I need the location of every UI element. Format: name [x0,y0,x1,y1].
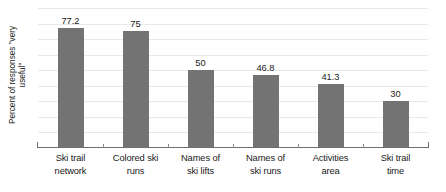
gridline [38,101,428,102]
bar [188,70,214,148]
bar-value-label: 46.8 [256,63,274,74]
x-axis-label-line: Activities [298,152,363,165]
gridline [38,117,428,118]
bar-value-label: 77.2 [61,16,79,27]
gridline [38,8,428,9]
x-axis-label: Ski trailtime [363,152,428,178]
bar-group: 46.8 [253,8,279,148]
bar-group: 50 [188,8,214,148]
x-axis-tick [298,144,299,148]
bar-value-label: 41.3 [321,72,339,83]
bar-chart: Percent of responses "very useful" 77.27… [0,0,446,192]
x-axis-tick [168,144,169,148]
x-axis-tick [363,144,364,148]
x-axis-label-line: time [363,165,428,178]
bar [383,101,409,148]
bar-group: 41.3 [318,8,344,148]
bar-group: 75 [123,8,149,148]
x-axis-label-line: network [38,165,103,178]
gridline [38,55,428,56]
gridline [38,132,428,133]
x-axis-label-line: runs [103,165,168,178]
gridline [38,24,428,25]
x-axis-tick [103,144,104,148]
plot-area: 77.2755046.841.330 [38,8,428,148]
bar [58,28,84,148]
x-axis-label: Activitiesarea [298,152,363,178]
x-axis-label-line: Colored ski [103,152,168,165]
y-axis-title-line-1: Percent of responses "very [7,26,17,124]
bar [318,84,344,148]
bar-value-label: 75 [130,19,140,30]
gridline [38,70,428,71]
y-axis-title: Percent of responses "very useful" [0,0,34,150]
x-axis-label-line: Names of [233,152,298,165]
x-axis-label-line: ski lifts [168,165,233,178]
x-axis-label-line: Ski trail [363,152,428,165]
gridline [38,86,428,87]
bar-value-label: 50 [195,58,205,69]
x-axis-label: Names ofski runs [233,152,298,178]
bar [123,31,149,148]
x-axis-label: Ski trailnetwork [38,152,103,178]
bar-group: 30 [383,8,409,148]
x-axis-label-line: ski runs [233,165,298,178]
gridline [38,39,428,40]
bar-value-label: 30 [390,89,400,100]
x-axis-label: Colored skiruns [103,152,168,178]
x-axis-label-line: Names of [168,152,233,165]
x-axis-right-cap [428,142,429,148]
x-axis-label: Names ofski lifts [168,152,233,178]
x-axis-label-line: Ski trail [38,152,103,165]
bar [253,75,279,148]
x-axis-tick [233,144,234,148]
x-axis-label-line: area [298,165,363,178]
y-axis-title-line-2: useful" [17,26,27,124]
bar-group: 77.2 [58,8,84,148]
